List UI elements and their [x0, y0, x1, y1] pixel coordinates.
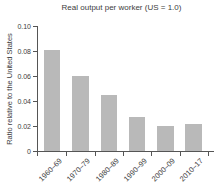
bar-1980–89: [101, 95, 118, 151]
x-tick-mark: [151, 152, 152, 156]
x-tick-mark: [95, 152, 96, 156]
x-tick-label: 1970–79: [66, 157, 92, 183]
bar-1970–79: [72, 76, 89, 151]
bar-1990–99: [129, 117, 146, 151]
x-axis-line: [37, 151, 214, 152]
plot-area: 00.020.040.060.080.101960–691970–791980–…: [0, 0, 216, 195]
y-tick-label: 0: [7, 147, 31, 156]
bar-1960–69: [44, 50, 61, 151]
x-tick-mark: [208, 152, 209, 156]
y-tick-mark: [33, 76, 37, 77]
bar-chart-figure: Real output per worker (US = 1.0) Ratio …: [0, 0, 216, 195]
y-axis-line: [37, 26, 38, 151]
y-tick-label: 0.08: [7, 47, 31, 56]
y-tick-label: 0.06: [7, 72, 31, 81]
y-tick-mark: [33, 101, 37, 102]
x-tick-label: 2010–17: [179, 157, 205, 183]
y-tick-label: 0.02: [7, 122, 31, 131]
bar-2000–09: [157, 126, 174, 151]
y-tick-label: 0.04: [7, 97, 31, 106]
y-tick-mark: [33, 126, 37, 127]
x-tick-label: 2000–09: [151, 157, 177, 183]
x-tick-mark: [66, 152, 67, 156]
y-tick-mark: [33, 26, 37, 27]
x-tick-label: 1980–89: [94, 157, 120, 183]
x-tick-mark: [180, 152, 181, 156]
x-tick-label: 1960–69: [38, 157, 64, 183]
bar-2010–17: [185, 124, 202, 152]
x-tick-mark: [123, 152, 124, 156]
y-tick-mark: [33, 51, 37, 52]
y-tick-label: 0.10: [7, 22, 31, 31]
x-tick-label: 1990–99: [122, 157, 148, 183]
x-tick-mark: [37, 152, 38, 156]
